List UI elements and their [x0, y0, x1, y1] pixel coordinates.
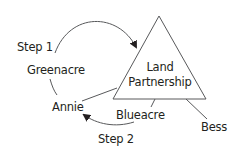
land-label: Land — [135, 62, 185, 74]
step2-label: Step 2 — [98, 134, 134, 146]
bess-partnership-line — [186, 99, 207, 119]
greenacre-annie-line — [50, 79, 57, 95]
blueacre-label: Blueacre — [116, 110, 165, 122]
step1-arrow — [55, 21, 136, 53]
partnership-label: Partnership — [124, 77, 196, 89]
greenacre-label: Greenacre — [27, 65, 85, 77]
step1-label: Step 1 — [17, 42, 53, 54]
diagram-canvas: Step 1 Greenacre Annie Blueacre Bess Ste… — [0, 0, 235, 155]
annie-label: Annie — [52, 102, 84, 114]
blueacre-partnership-line — [151, 99, 155, 107]
annie-partnership-line — [82, 88, 117, 101]
bess-label: Bess — [201, 122, 227, 134]
